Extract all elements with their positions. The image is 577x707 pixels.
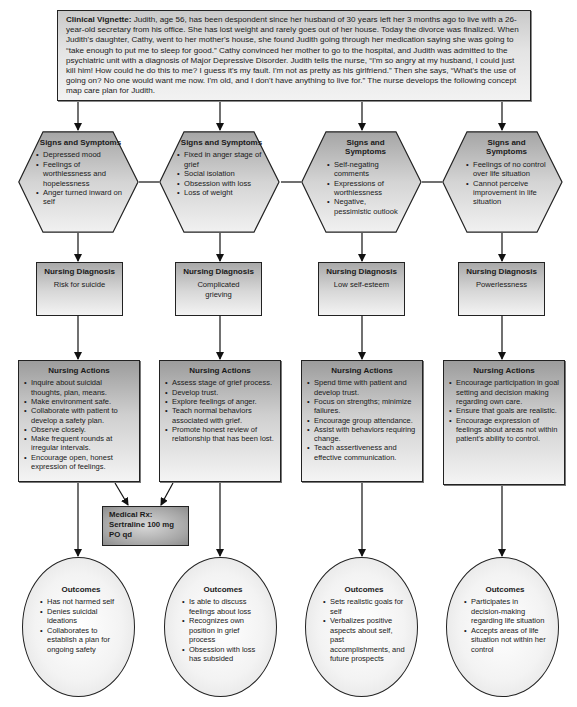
signs-symptoms-hexagon-2: Signs and Symptoms Fixed in anger stage … — [159, 131, 280, 233]
outcome-item: Obsession with loss has subsided — [182, 645, 264, 664]
signs-title: Signs and Symptoms — [327, 138, 404, 157]
outcomes-title: Outcomes — [182, 585, 264, 594]
action-item: Encourage group attendance. — [307, 416, 417, 425]
outcome-item: Has not harmed self — [40, 597, 122, 607]
outcome-item: Verbalizes positive aspects about self, … — [323, 616, 405, 664]
outcome-item: Collaborates to establish a plan for ong… — [40, 626, 122, 655]
medical-rx-box: Medical Rx: Sertraline 100 mg PO qd — [102, 506, 189, 546]
outcomes-list: Participates in decision-making regardin… — [464, 597, 546, 654]
outcome-item: Participates in decision-making regardin… — [464, 597, 546, 626]
action-item: Spend time with patient and develop trus… — [307, 378, 417, 397]
signs-item: Obsession with loss — [177, 179, 266, 188]
clinical-vignette-box: Clinical Vignette: Judith, age 56, has b… — [57, 10, 531, 101]
signs-symptoms-hexagon-4: Signs and Symptoms Feelings of no contro… — [442, 131, 563, 233]
signs-item: Social isolation — [177, 169, 266, 178]
action-item: Assist with behaviors requiring change. — [307, 425, 417, 444]
outcomes-ellipse-2: Outcomes Is able to discuss feelings abo… — [164, 557, 277, 697]
action-item: Teach assertiveness and effective commun… — [307, 443, 417, 462]
signs-item: Anger turned inward on self — [36, 188, 125, 207]
actions-title: Nursing Actions — [449, 366, 559, 375]
medical-rx-label: Medical Rx: — [109, 510, 182, 520]
action-item: Inquire about suicidal thoughts, plan, m… — [24, 378, 134, 397]
action-item: Collaborate with patient to develop a sa… — [24, 406, 134, 425]
signs-list: Fixed in anger stage of grief Social iso… — [177, 150, 266, 197]
outcome-item: Recognizes own position in grief process — [182, 616, 264, 645]
diagnosis-title: Nursing Diagnosis — [37, 267, 122, 276]
actions-list: Spend time with patient and develop trus… — [307, 378, 417, 462]
diagnosis-title: Nursing Diagnosis — [176, 267, 261, 276]
diagnosis-text: Risk for suicide — [37, 280, 122, 289]
diagnosis-text: Powerlessness — [459, 280, 544, 289]
actions-list: Encourage participation in goal setting … — [449, 378, 559, 443]
nursing-actions-box-2: Nursing Actions Assess stage of grief pr… — [159, 360, 281, 482]
action-item: Make environment safe. — [24, 397, 134, 406]
action-item: Promote honest review of relationship th… — [165, 425, 275, 444]
signs-title: Signs and Symptoms — [177, 138, 266, 147]
action-item: Encourage open, honest expression of fee… — [24, 453, 134, 472]
outcomes-ellipse-3: Outcomes Sets realistic goals for self V… — [305, 557, 418, 697]
actions-title: Nursing Actions — [165, 366, 275, 375]
signs-symptoms-hexagon-3: Signs and Symptoms Self-negating comment… — [301, 131, 422, 233]
vignette-text: Judith, age 56, has been despondent sinc… — [66, 15, 519, 95]
nursing-diagnosis-box-3: Nursing Diagnosis Low self-esteem — [318, 262, 405, 316]
signs-item: Cannot perceive improvement in life situ… — [466, 179, 547, 207]
nursing-diagnosis-box-2: Nursing Diagnosis Complicated grieving — [175, 262, 262, 316]
outcomes-ellipse-4: Outcomes Participates in decision-making… — [446, 557, 559, 697]
action-item: Assess stage of grief process. — [165, 378, 275, 387]
actions-list: Assess stage of grief process. Develop t… — [165, 378, 275, 443]
signs-item: Expressions of worthlessness — [327, 179, 404, 198]
signs-item: Self-negating comments — [327, 160, 404, 179]
action-item: Ensure that goals are realistic. — [449, 406, 559, 415]
outcomes-title: Outcomes — [464, 585, 546, 594]
signs-symptoms-hexagon-1: Signs and Symptoms Depressed mood Feelin… — [18, 131, 139, 233]
nursing-actions-box-4: Nursing Actions Encourage participation … — [443, 360, 565, 485]
signs-item: Fixed in anger stage of grief — [177, 150, 266, 169]
vignette-label: Clinical Vignette: — [66, 15, 132, 24]
diagnosis-title: Nursing Diagnosis — [459, 267, 544, 276]
outcome-item: Sets realistic goals for self — [323, 597, 405, 616]
actions-list: Inquire about suicidal thoughts, plan, m… — [24, 378, 134, 471]
actions-title: Nursing Actions — [307, 366, 417, 375]
action-item: Make frequent rounds at irregular interv… — [24, 434, 134, 453]
signs-list: Depressed mood Feelings of worthlessness… — [36, 150, 125, 206]
outcome-item: Is able to discuss feelings about loss — [182, 597, 264, 616]
action-item: Teach normal behaviors associated with g… — [165, 406, 275, 425]
signs-item: Feelings of no control over life situati… — [466, 160, 547, 179]
nursing-diagnosis-box-4: Nursing Diagnosis Powerlessness — [458, 262, 545, 316]
outcomes-title: Outcomes — [40, 585, 122, 594]
outcomes-list: Sets realistic goals for self Verbalizes… — [323, 597, 405, 664]
nursing-actions-box-1: Nursing Actions Inquire about suicidal t… — [18, 360, 140, 482]
signs-item: Negative, pessimistic outlook — [327, 197, 404, 216]
signs-list: Self-negating comments Expressions of wo… — [327, 160, 404, 216]
action-item: Observe closely. — [24, 425, 134, 434]
diagnosis-title: Nursing Diagnosis — [319, 267, 404, 276]
signs-list: Feelings of no control over life situati… — [466, 160, 547, 207]
action-item: Explore feelings of anger. — [165, 397, 275, 406]
outcomes-title: Outcomes — [323, 585, 405, 594]
action-item: Focus on strengths; minimize failures. — [307, 397, 417, 416]
signs-item: Feelings of worthlessness and hopelessne… — [36, 160, 125, 188]
signs-item: Loss of weight — [177, 188, 266, 197]
medical-rx-route: PO qd — [109, 530, 182, 540]
action-item: Develop trust. — [165, 388, 275, 397]
diagnosis-text: Low self-esteem — [319, 280, 404, 289]
action-item: Encourage expression of feelings about a… — [449, 416, 559, 444]
action-item: Encourage participation in goal setting … — [449, 378, 559, 406]
outcome-item: Accepts areas of life situation not with… — [464, 626, 546, 655]
signs-title: Signs and Symptoms — [36, 138, 125, 147]
signs-item: Depressed mood — [36, 150, 125, 159]
outcomes-list: Is able to discuss feelings about loss R… — [182, 597, 264, 664]
concept-map: Clinical Vignette: Judith, age 56, has b… — [0, 0, 577, 707]
actions-title: Nursing Actions — [24, 366, 134, 375]
diagnosis-text: Complicated grieving — [176, 280, 261, 299]
outcomes-ellipse-1: Outcomes Has not harmed self Denies suic… — [22, 557, 135, 697]
signs-title: Signs and Symptoms — [466, 138, 547, 157]
outcomes-list: Has not harmed self Denies suicidal idea… — [40, 597, 122, 654]
nursing-actions-box-3: Nursing Actions Spend time with patient … — [301, 360, 423, 482]
nursing-diagnosis-box-1: Nursing Diagnosis Risk for suicide — [36, 262, 123, 316]
outcome-item: Denies suicidal ideations — [40, 607, 122, 626]
medical-rx-drug: Sertraline 100 mg — [109, 520, 182, 530]
